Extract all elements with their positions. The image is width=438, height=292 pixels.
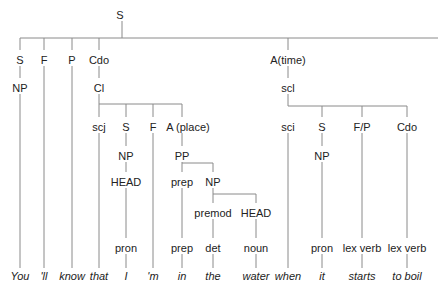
node-f2: F: [149, 121, 158, 133]
node-det: det: [204, 242, 221, 254]
node-pron1: pron: [114, 242, 138, 254]
word-3: that: [89, 270, 109, 282]
word-12: to boil: [391, 270, 422, 282]
node-s3: S: [317, 121, 326, 133]
word-9: when: [274, 270, 302, 282]
node-scl: scl: [280, 82, 295, 94]
node-np3: NP: [204, 176, 221, 188]
node-premod: premod: [193, 207, 232, 219]
node-lexverb2: lex verb: [387, 242, 428, 254]
word-11: starts: [348, 270, 377, 282]
node-np1: NP: [11, 82, 28, 94]
node-prep2: prep: [170, 242, 194, 254]
node-cl: Cl: [93, 82, 105, 94]
node-pp: PP: [174, 150, 191, 162]
node-s2: S: [121, 121, 130, 133]
node-aplace: A (place): [165, 121, 210, 133]
node-root: S: [115, 9, 124, 21]
word-6: in: [177, 270, 188, 282]
word-8: water: [242, 270, 271, 282]
node-s1: S: [15, 54, 24, 66]
node-fp: F/P: [352, 121, 371, 133]
node-cdo1: Cdo: [88, 54, 110, 66]
node-p1: P: [67, 54, 76, 66]
node-head1: HEAD: [110, 176, 143, 188]
node-cdo2: Cdo: [396, 121, 418, 133]
node-atime: A(time): [269, 54, 306, 66]
node-head2: HEAD: [240, 207, 273, 219]
node-np2: NP: [117, 150, 134, 162]
word-5: 'm: [146, 270, 159, 282]
word-7: the: [204, 270, 221, 282]
node-f1: F: [40, 54, 49, 66]
node-lexverb1: lex verb: [342, 242, 383, 254]
node-prep1: prep: [170, 176, 194, 188]
node-noun: noun: [243, 242, 269, 254]
word-0: You: [10, 270, 31, 282]
word-1: 'll: [40, 270, 49, 282]
node-np4: NP: [313, 150, 330, 162]
node-sci: sci: [280, 121, 295, 133]
node-scj: scj: [91, 121, 106, 133]
word-4: I: [123, 270, 128, 282]
node-pron2: pron: [310, 242, 334, 254]
word-10: it: [318, 270, 326, 282]
syntax-tree-diagram: SSFPCdoNPClscjSFA (place)NPPPHEADprepNPp…: [0, 0, 438, 292]
word-2: know: [58, 270, 86, 282]
